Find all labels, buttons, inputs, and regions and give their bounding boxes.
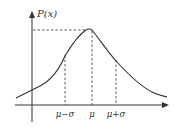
x-axis-arrow-icon bbox=[162, 102, 169, 108]
distribution-diagram: P(x) μ−σ μ μ+σ bbox=[0, 0, 185, 129]
tick-label-mu-plus-sigma: μ+σ bbox=[107, 109, 126, 119]
tick-label-mu-minus-sigma: μ−σ bbox=[56, 109, 75, 119]
y-axis-arrow-icon bbox=[29, 11, 35, 18]
y-axis-label: P(x) bbox=[36, 8, 57, 19]
distribution-curve bbox=[16, 29, 167, 98]
tick-label-mu: μ bbox=[89, 109, 95, 119]
